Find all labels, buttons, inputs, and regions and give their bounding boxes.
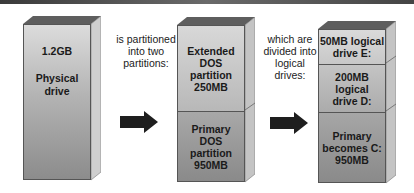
caption-2-line-2: divided into	[258, 45, 322, 57]
caption-2-line-4: drives:	[258, 69, 322, 81]
drive-d-line-2: logical	[332, 83, 371, 95]
partitions-front: Extended DOS partition 250MB Primary DOS…	[177, 25, 245, 182]
drive-e-line-1: 50MB logical	[320, 35, 384, 47]
caption-1-line-3: partitions:	[108, 57, 184, 69]
partitions-block: Extended DOS partition 250MB Primary DOS…	[177, 17, 255, 184]
drive-c-line-2: becomes C:	[322, 142, 382, 154]
caption-1-line-1: is partitioned	[108, 33, 184, 45]
drive-c-line-1: Primary	[322, 130, 382, 142]
logical-drives-block: 50MB logical drive E: 200MB logical driv…	[318, 21, 396, 185]
logical-drives-front: 50MB logical drive E: 200MB logical driv…	[318, 29, 386, 183]
partitions-side-face	[244, 17, 255, 184]
logical-drives-side-face	[385, 21, 396, 185]
primary-dos-partition: Primary DOS partition 950MB	[178, 111, 244, 181]
extended-dos-partition: Extended DOS partition 250MB	[178, 26, 244, 111]
right-arrow-icon	[270, 112, 310, 134]
caption-2-line-3: logical	[258, 57, 322, 69]
caption-logical: which are divided into logical drives:	[258, 33, 322, 81]
physical-drive-label-2: drive	[24, 85, 90, 97]
caption-partitioned: is partitioned into two partitions:	[108, 33, 184, 69]
primary-line-2: DOS	[190, 135, 232, 147]
primary-line-3: partition	[190, 147, 232, 159]
logical-drive-e: 50MB logical drive E:	[319, 30, 385, 64]
physical-drive-side-face	[90, 16, 101, 182]
physical-drive-block: 1.2GB Physical drive	[23, 16, 101, 182]
physical-drive-front: 1.2GB Physical drive	[23, 24, 91, 180]
physical-drive-label-1: Physical	[24, 72, 90, 84]
caption-2-line-1: which are	[258, 33, 322, 45]
drive-d-line-1: 200MB	[332, 71, 371, 83]
drive-d-line-3: drive D:	[332, 95, 371, 107]
primary-line-1: Primary	[190, 123, 232, 135]
drive-e-line-2: drive E:	[320, 47, 384, 59]
logical-drive-d: 200MB logical drive D:	[319, 64, 385, 112]
primary-drive-c: Primary becomes C: 950MB	[319, 112, 385, 182]
primary-line-4: 950MB	[190, 159, 232, 171]
extended-line-4: 250MB	[187, 81, 234, 93]
drive-c-line-3: 950MB	[322, 154, 382, 166]
right-arrow-icon	[120, 111, 160, 133]
extended-line-2: DOS	[187, 57, 234, 69]
caption-1-line-2: into two	[108, 45, 184, 57]
physical-drive-size: 1.2GB	[24, 45, 90, 57]
top-rule	[0, 0, 414, 4]
extended-line-3: partition	[187, 69, 234, 81]
extended-line-1: Extended	[187, 45, 234, 57]
